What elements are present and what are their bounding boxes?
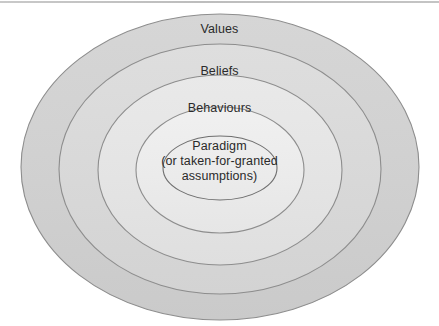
ring-label-values: Values: [0, 22, 439, 37]
paradigm-label-line-3: assumptions): [0, 169, 439, 184]
paradigm-label-line-1: Paradigm: [0, 139, 439, 154]
ring-label-paradigm: Paradigm (or taken-for-granted assumptio…: [0, 139, 439, 183]
paradigm-label-line-2: (or taken-for-granted: [0, 154, 439, 169]
diagram-canvas: Values Beliefs Behaviours Paradigm (or t…: [0, 0, 439, 326]
ring-label-behaviours: Behaviours: [0, 101, 439, 116]
ring-label-beliefs: Beliefs: [0, 64, 439, 79]
